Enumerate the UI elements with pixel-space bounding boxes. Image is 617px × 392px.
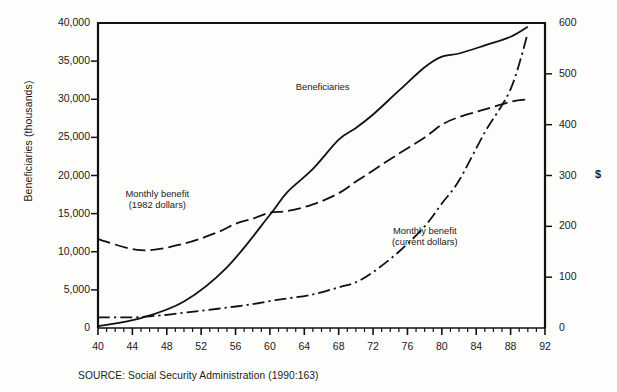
y-axis-left-tick-label: 30,000 [32, 92, 90, 104]
right-axis-unit-symbol: $ [595, 168, 601, 180]
series-annotation-beneficiaries: Beneficiaries [296, 81, 350, 93]
x-axis-tick-label: 44 [117, 340, 147, 352]
x-axis-tick-label: 92 [530, 340, 560, 352]
x-axis-tick-label: 80 [427, 340, 457, 352]
chart-plot-area [0, 0, 617, 392]
y-axis-left-tick-label: 40,000 [32, 16, 90, 28]
x-axis-tick-label: 76 [392, 340, 422, 352]
x-axis-tick-label: 88 [496, 340, 526, 352]
y-axis-left-tick-label: 15,000 [32, 207, 90, 219]
y-axis-left-tick-label: 0 [32, 321, 90, 333]
series-line-2 [98, 99, 528, 250]
series-annotation-benefit-current: Monthly benefit(current dollars) [392, 225, 458, 248]
x-axis-tick-label: 72 [358, 340, 388, 352]
series-annotation-benefit-current-line1: Monthly benefit [392, 225, 458, 237]
y-axis-left-tick-label: 35,000 [32, 54, 90, 66]
x-axis-tick-label: 56 [221, 340, 251, 352]
x-axis-tick-label: 48 [152, 340, 182, 352]
y-axis-left-tick-label: 5,000 [32, 283, 90, 295]
y-axis-right-tick-label: 400 [559, 118, 577, 130]
y-axis-right-tick-label: 300 [559, 169, 577, 181]
y-axis-right-tick-label: 500 [559, 67, 577, 79]
data-series-group [98, 27, 528, 327]
y-axis-left-tick-label: 20,000 [32, 169, 90, 181]
x-axis-tick-label: 60 [255, 340, 285, 352]
x-axis-tick-label: 40 [83, 340, 113, 352]
y-axis-right-tick-label: 600 [559, 16, 577, 28]
y-axis-right-tick-label: 100 [559, 270, 577, 282]
x-axis-tick-label: 64 [289, 340, 319, 352]
figure-container: Beneficiaries (thousands) 05,00010,00015… [0, 0, 617, 392]
y-axis-right-tick-label: 200 [559, 219, 577, 231]
y-axis-right-tick-label: 0 [559, 321, 565, 333]
series-annotation-benefit-1982-line1: Monthly benefit [126, 188, 190, 200]
x-axis-tick-label: 68 [324, 340, 354, 352]
y-axis-left-tick-label: 25,000 [32, 130, 90, 142]
series-annotation-benefit-1982: Monthly benefit(1982 dollars) [126, 188, 190, 211]
series-annotation-benefit-current-line2: (current dollars) [392, 236, 458, 248]
series-annotation-benefit-1982-line2: (1982 dollars) [126, 199, 190, 211]
x-axis-tick-label: 52 [186, 340, 216, 352]
x-axis-tick-label: 84 [461, 340, 491, 352]
source-note: SOURCE: Social Security Administration (… [78, 370, 318, 381]
plot-frame [98, 23, 545, 328]
series-line-3 [98, 33, 528, 317]
y-axis-left-tick-label: 10,000 [32, 245, 90, 257]
series-line-1 [98, 27, 528, 327]
